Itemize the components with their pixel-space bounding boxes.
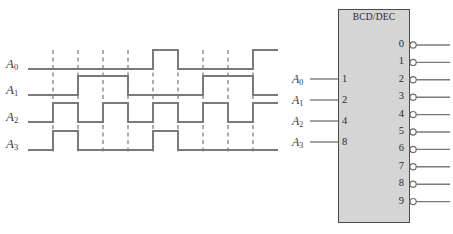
output-pin-lines [416,45,450,202]
inversion-bubble-4 [410,112,416,118]
output-number-1: 1 [390,55,404,66]
chip-input-label-a0: A0 [292,72,303,87]
output-number-8: 8 [390,177,404,188]
inversion-bubble-6 [410,146,416,152]
waveform-label-a2: A2 [6,109,18,125]
inversion-bubble-0 [410,42,416,48]
inversion-bubble-5 [410,129,416,135]
output-number-4: 4 [390,108,404,119]
waveform-a1 [28,76,278,95]
chip-pin-weight-8: 8 [342,136,347,147]
output-number-5: 5 [390,125,404,136]
timing-diagram: A0 A1 A2 A3 [0,0,290,234]
waveform-traces [28,50,278,150]
waveform-a2 [28,103,278,122]
output-number-7: 7 [390,160,404,171]
inversion-bubble-2 [410,77,416,83]
output-number-9: 9 [390,195,404,206]
waveform-a3 [28,131,278,150]
inversion-bubble-3 [410,94,416,100]
chip-pin-weight-1: 1 [342,73,347,84]
waveform-label-a3: A3 [6,136,18,152]
chip-input-label-a1: A1 [292,93,303,108]
inversion-bubble-1 [410,59,416,65]
output-number-6: 6 [390,142,404,153]
output-number-2: 2 [390,73,404,84]
chip-pin-lines [290,0,453,234]
waveform-a0 [28,50,278,69]
chip-input-label-a2: A2 [292,114,303,129]
inversion-bubble-9 [410,199,416,205]
chip-pin-weight-2: 2 [342,94,347,105]
figure-root: A0 A1 A2 A3 BCD/DEC A0 A1 A2 A [0,0,453,234]
output-number-0: 0 [390,38,404,49]
output-number-3: 3 [390,90,404,101]
chip-input-label-a3: A3 [292,135,303,150]
decoder-symbol: BCD/DEC A0 A1 A2 A3 1 2 4 8 0123456789 [290,0,453,234]
waveform-label-a1: A1 [6,82,18,98]
output-inversion-bubbles [410,42,416,205]
input-pin-lines [310,79,338,142]
waveform-label-a0: A0 [6,56,18,72]
timing-waveforms [0,0,290,234]
inversion-bubble-7 [410,164,416,170]
inversion-bubble-8 [410,181,416,187]
chip-pin-weight-4: 4 [342,115,347,126]
